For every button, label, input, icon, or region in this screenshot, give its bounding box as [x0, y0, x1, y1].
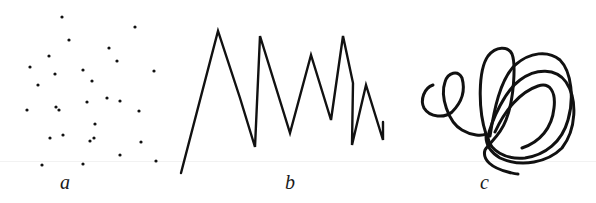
- dot: [67, 38, 70, 41]
- panel-label-c: c: [480, 172, 489, 192]
- dot: [107, 46, 110, 49]
- drawings: [0, 0, 596, 203]
- dot: [118, 153, 121, 156]
- panel-a-dots: [25, 15, 157, 166]
- dot: [118, 99, 121, 102]
- dot: [137, 109, 140, 112]
- dot: [85, 100, 88, 103]
- panel-c-scribble: [422, 48, 573, 174]
- dot: [152, 69, 155, 72]
- figure: a b c: [0, 0, 596, 203]
- dot: [53, 72, 56, 75]
- panel-label-b: b: [285, 172, 295, 192]
- panel-b-zigzag: [181, 31, 383, 173]
- dot: [133, 25, 136, 28]
- dot: [88, 139, 91, 142]
- dot: [54, 105, 57, 108]
- dot: [60, 15, 63, 18]
- dot: [115, 59, 118, 62]
- dot: [139, 140, 142, 143]
- dot: [57, 108, 60, 111]
- dot: [48, 136, 51, 139]
- dot: [90, 79, 93, 82]
- dot: [36, 83, 39, 86]
- dot: [61, 133, 64, 136]
- dot: [93, 122, 96, 125]
- dot: [25, 108, 28, 111]
- dot: [81, 68, 84, 71]
- dot: [154, 159, 157, 162]
- dot: [81, 162, 84, 165]
- dot: [105, 96, 108, 99]
- dot: [28, 65, 31, 68]
- dot: [47, 54, 50, 57]
- dot: [92, 136, 95, 139]
- panel-label-a: a: [60, 172, 70, 192]
- dot: [40, 163, 43, 166]
